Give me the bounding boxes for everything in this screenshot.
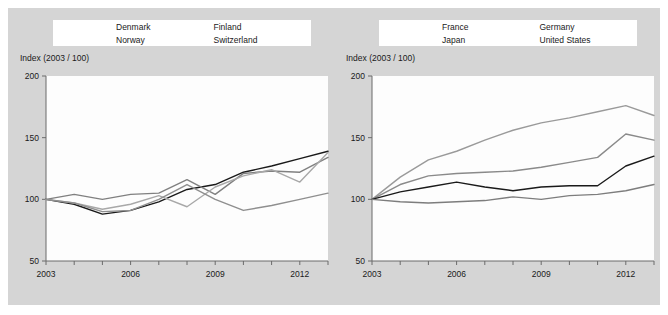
figure-frame: Denmark Finland Norway Switzerland Index…	[8, 8, 660, 305]
x-tick-label: 2003	[363, 269, 382, 279]
axis-title-right: Index (2003 / 100)	[346, 53, 415, 63]
y-tick-label: 150	[351, 133, 365, 143]
y-tick-label: 100	[351, 194, 365, 204]
x-tick-label: 2003	[37, 269, 56, 279]
legend-item-finland: Finland	[214, 21, 312, 33]
x-tick-label: 2006	[121, 269, 140, 279]
legend-left: Denmark Finland Norway Switzerland	[53, 20, 311, 46]
x-tick-label: 2012	[290, 269, 309, 279]
y-tick-label: 150	[25, 133, 39, 143]
plot-area-right: 501001502002003200620092012	[334, 66, 660, 305]
legend-item-denmark: Denmark	[116, 21, 214, 33]
legend-item-norway: Norway	[116, 34, 214, 46]
x-tick-label: 2009	[206, 269, 225, 279]
x-tick-label: 2012	[616, 269, 635, 279]
chart-panel-left: Denmark Finland Norway Switzerland Index…	[8, 8, 334, 305]
legend-item-japan: Japan	[442, 34, 540, 46]
y-tick-label: 200	[25, 71, 39, 81]
y-tick-label: 50	[30, 256, 40, 266]
chart-panel-right: France Germany Japan United States Index…	[334, 8, 660, 305]
legend-item-switzerland: Switzerland	[214, 34, 312, 46]
y-tick-label: 100	[25, 194, 39, 204]
y-tick-label: 200	[351, 71, 365, 81]
x-tick-label: 2009	[532, 269, 551, 279]
legend-item-germany: Germany	[540, 21, 638, 33]
legend-item-france: France	[442, 21, 540, 33]
y-tick-label: 50	[356, 256, 366, 266]
legend-right: France Germany Japan United States	[379, 20, 637, 46]
legend-item-united-states: United States	[540, 34, 638, 46]
figure-canvas: Denmark Finland Norway Switzerland Index…	[0, 0, 668, 315]
x-tick-label: 2006	[447, 269, 466, 279]
axis-title-left: Index (2003 / 100)	[20, 53, 89, 63]
plot-area-left: 501001502002003200620092012	[8, 66, 334, 305]
